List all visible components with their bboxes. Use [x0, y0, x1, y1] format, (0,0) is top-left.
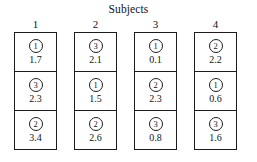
subject-stack-4: 2 2.2 1 0.6 3 1.6: [194, 32, 237, 150]
table-row: 1 0.1: [135, 33, 176, 72]
treatment-badge: 3: [89, 39, 103, 53]
response-value: 2.3: [149, 93, 162, 105]
table-row: 1 1.5: [75, 72, 116, 111]
subject-stack-2: 3 2.1 1 1.5 2 2.6: [74, 32, 117, 150]
subject-stack-3: 1 0.1 2 2.3 3 0.8: [134, 32, 177, 150]
subject-column-header-3: 3: [134, 18, 177, 32]
table-row: 3 2.1: [75, 33, 116, 72]
subject-column-2: 2 3 2.1 1 1.5 2 2.6: [74, 18, 117, 150]
treatment-badge: 2: [29, 117, 43, 131]
table-row: 1 1.7: [15, 33, 56, 72]
table-row: 3 0.8: [135, 111, 176, 149]
subjects-block-diagram: Subjects 1 1 1.7 3 2.3 2 3.4: [0, 0, 257, 162]
response-value: 0.6: [209, 93, 222, 105]
table-row: 2 2.2: [195, 33, 236, 72]
table-row: 2 3.4: [15, 111, 56, 149]
treatment-badge: 1: [89, 78, 103, 92]
table-row: 2 2.3: [135, 72, 176, 111]
treatment-badge: 1: [29, 39, 43, 53]
subject-column-3: 3 1 0.1 2 2.3 3 0.8: [134, 18, 177, 150]
table-row: 2 2.6: [75, 111, 116, 149]
subject-stack-1: 1 1.7 3 2.3 2 3.4: [14, 32, 57, 150]
treatment-badge: 3: [209, 117, 223, 131]
table-row: 3 2.3: [15, 72, 56, 111]
subject-column-header-4: 4: [194, 18, 237, 32]
table-row: 1 0.6: [195, 72, 236, 111]
table-row: 3 1.6: [195, 111, 236, 149]
subject-column-header-1: 1: [14, 18, 57, 32]
response-value: 2.3: [29, 93, 42, 105]
treatment-badge: 1: [149, 39, 163, 53]
subject-column-1: 1 1 1.7 3 2.3 2 3.4: [14, 18, 57, 150]
response-value: 2.6: [89, 132, 102, 144]
response-value: 0.8: [149, 132, 162, 144]
treatment-badge: 1: [209, 78, 223, 92]
response-value: 1.5: [89, 93, 102, 105]
treatment-badge: 2: [209, 39, 223, 53]
response-value: 1.6: [209, 132, 222, 144]
subject-column-header-2: 2: [74, 18, 117, 32]
treatment-badge: 3: [149, 117, 163, 131]
treatment-badge: 2: [149, 78, 163, 92]
subject-columns: 1 1 1.7 3 2.3 2 3.4 2 3: [14, 18, 243, 158]
response-value: 2.1: [89, 54, 102, 66]
treatment-badge: 3: [29, 78, 43, 92]
response-value: 1.7: [29, 54, 42, 66]
subject-column-4: 4 2 2.2 1 0.6 3 1.6: [194, 18, 237, 150]
treatment-badge: 2: [89, 117, 103, 131]
response-value: 3.4: [29, 132, 42, 144]
response-value: 2.2: [209, 54, 222, 66]
page-title: Subjects: [0, 3, 257, 16]
response-value: 0.1: [149, 54, 162, 66]
